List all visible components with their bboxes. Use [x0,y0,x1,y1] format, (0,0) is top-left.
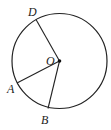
circle-diagram: D O A B [0,0,111,130]
label-a: A [6,82,15,96]
label-b: B [41,113,49,127]
label-o: O [46,54,55,68]
segment-ob [48,61,60,109]
label-d: D [27,5,37,19]
center-point [58,59,62,63]
